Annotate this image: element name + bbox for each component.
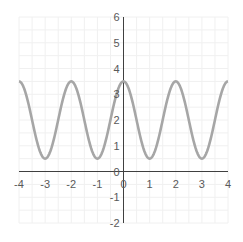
y-tick-label: 3 [113,88,119,100]
cosine-chart: -4-3-2-101234 -2-10123456 [0,0,243,242]
x-tick-label: 2 [173,178,179,190]
x-tick-label: -3 [40,178,50,190]
x-tick-label: 0 [120,178,126,190]
y-tick-label: -1 [110,191,120,203]
x-tick-label: 4 [225,178,231,190]
x-tick-label: -2 [66,178,76,190]
x-tick-label: -1 [92,178,102,190]
y-tick-label: 4 [113,63,119,75]
x-tick-label: 3 [199,178,205,190]
y-tick-label: 1 [113,140,119,152]
x-tick-labels: -4-3-2-101234 [14,178,231,190]
y-tick-label: 6 [113,11,119,23]
y-tick-label: 5 [113,37,119,49]
y-tick-label: -2 [110,217,120,229]
x-tick-label: 1 [147,178,153,190]
x-tick-label: -4 [14,178,24,190]
y-tick-label: 0 [113,166,119,178]
y-tick-label: 2 [113,114,119,126]
